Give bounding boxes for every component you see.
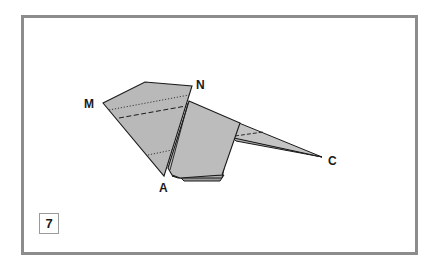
origami-diagram: M N A C: [0, 0, 433, 265]
label-n: N: [196, 78, 205, 92]
label-m: M: [84, 97, 94, 111]
label-c: C: [328, 154, 337, 168]
tail-flap: [229, 123, 322, 157]
step-number-badge: 7: [39, 213, 59, 234]
label-a: A: [159, 181, 168, 195]
